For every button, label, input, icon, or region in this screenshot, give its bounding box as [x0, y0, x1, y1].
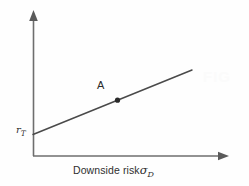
y-axis-label: Return	[0, 14, 1, 70]
sigma-subscript: D	[148, 170, 155, 179]
annotation-label-a: A	[97, 80, 104, 91]
sigma-symbol: σ	[140, 163, 148, 177]
data-point-a	[115, 98, 120, 103]
plot-area	[0, 0, 249, 186]
y-intercept-label-subscript: T	[21, 129, 26, 138]
data-series-line	[33, 70, 192, 135]
y-axis-arrow-icon	[29, 10, 38, 21]
chart-figure: Return Downside riskσD rT A FIG	[0, 0, 249, 186]
scan-artifact: FIG	[203, 68, 237, 86]
x-axis-arrow-icon	[218, 152, 229, 161]
y-intercept-label: rT	[16, 125, 26, 138]
x-axis-label: Downside riskσD	[73, 165, 154, 179]
x-axis-label-text: Downside risk	[73, 164, 140, 176]
